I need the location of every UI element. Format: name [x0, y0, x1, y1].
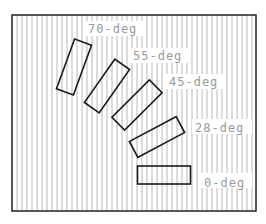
angle-label: 55-deg: [133, 49, 182, 63]
angle-label: 45-deg: [169, 75, 218, 89]
rotated-rectangle: [138, 166, 191, 184]
angle-label: 28-deg: [195, 121, 244, 135]
angle-label: 0-deg: [204, 176, 245, 190]
rotated-rectangles: 70-deg55-deg45-deg28-deg0-deg: [56, 21, 252, 190]
angle-diagram: 70-deg55-deg45-deg28-deg0-deg: [0, 0, 266, 224]
angle-label: 70-deg: [88, 22, 137, 36]
